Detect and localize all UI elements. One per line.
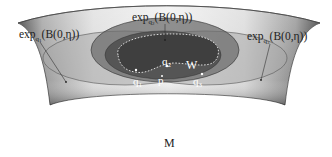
manifold-diagram: expq1(B(0,η)) expq2(B(0,η)) expq3(B(0,η)… bbox=[0, 0, 332, 157]
label-manifold-m: M bbox=[164, 137, 175, 149]
label-q2: q2 bbox=[162, 56, 171, 69]
point-q1 bbox=[135, 69, 137, 71]
point-q3 bbox=[201, 73, 203, 75]
label-q1: q1 bbox=[133, 76, 142, 89]
label-w: W bbox=[186, 59, 197, 71]
label-exp-q3: expq3(B(0,η)) bbox=[247, 31, 307, 45]
label-exp-q1: expq1(B(0,η)) bbox=[19, 29, 79, 43]
label-q3: q3 bbox=[193, 76, 202, 89]
label-p: p bbox=[158, 75, 164, 86]
label-exp-q2: expq2(B(0,η)) bbox=[132, 12, 192, 26]
